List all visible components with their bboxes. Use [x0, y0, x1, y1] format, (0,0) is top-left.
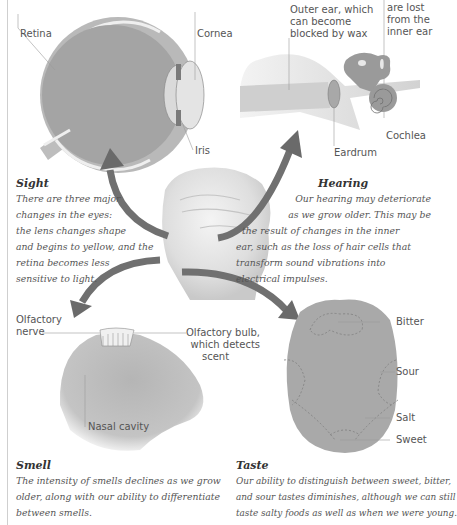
retina-label: Retina — [20, 28, 52, 40]
bitter-label: Bitter — [396, 316, 424, 328]
hearing-description: Our hearing may deteriorate as we grow o… — [236, 191, 431, 287]
iris-label: Iris — [195, 145, 210, 157]
olfactory-bulb-label: Olfactory bulb, which detects scent — [186, 327, 260, 363]
eardrum-label: Eardrum — [334, 147, 377, 159]
sweet-label: Sweet — [396, 434, 427, 446]
tongue-illustration — [284, 299, 398, 453]
cornea-label: Cornea — [197, 28, 233, 40]
taste-description: Our ability to distinguish between sweet… — [236, 473, 457, 521]
nasal-cavity-label: Nasal cavity — [88, 421, 149, 433]
taste-heading: Taste — [236, 459, 269, 472]
outer-ear-label: Outer ear, which can become blocked by w… — [290, 4, 373, 40]
hearing-heading: Hearing — [318, 177, 368, 190]
salt-label: Salt — [396, 412, 415, 424]
sight-heading: Sight — [16, 177, 49, 190]
sight-description: There are three major changes in the eye… — [16, 191, 154, 287]
hair-cells-label: Hair cells are lost from the inner ear — [387, 0, 433, 38]
smell-description: The intensity of smells declines as we g… — [16, 473, 221, 521]
smell-heading: Smell — [16, 459, 51, 472]
sour-label: Sour — [396, 366, 419, 378]
cochlea-label: Cochlea — [386, 130, 426, 142]
olfactory-nerve-label: Olfactory nerve — [16, 314, 62, 338]
